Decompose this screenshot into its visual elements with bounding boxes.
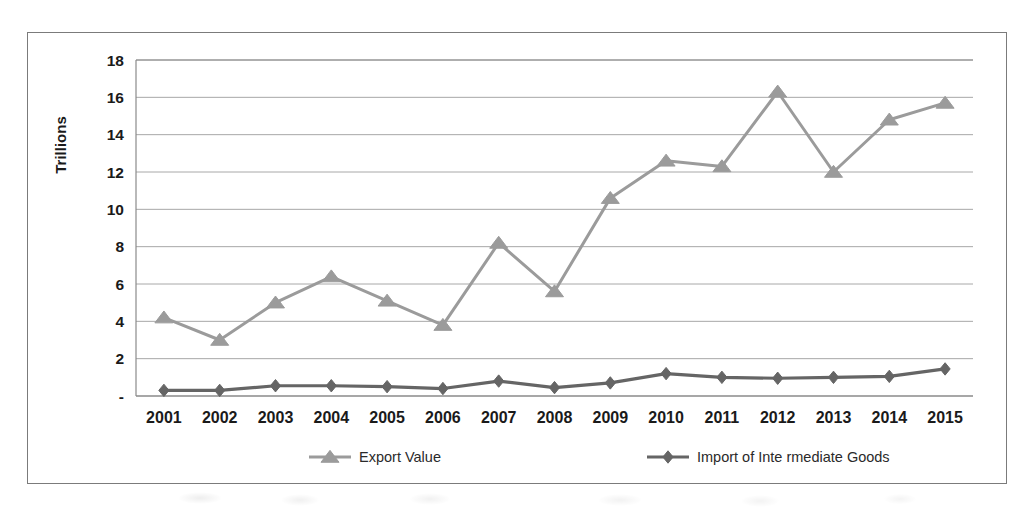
chart-frame: Trillions 18161412108642- 20012002200320… bbox=[27, 32, 1007, 484]
y-axis-tick-labels: 18161412108642- bbox=[107, 52, 125, 405]
data-point-marker-diamond bbox=[326, 380, 336, 392]
x-axis-tick-label: 2001 bbox=[146, 409, 182, 426]
gridlines bbox=[136, 60, 973, 359]
chart-legend: Export ValueImport of Inte rmediate Good… bbox=[309, 449, 890, 465]
x-axis-tick-label: 2012 bbox=[760, 409, 796, 426]
data-point-marker-diamond bbox=[382, 380, 392, 392]
x-axis-tick-label: 2015 bbox=[927, 409, 963, 426]
data-point-marker-diamond bbox=[661, 367, 671, 379]
data-point-marker-triangle bbox=[378, 294, 396, 306]
data-point-marker-triangle bbox=[434, 318, 452, 330]
line-chart: Trillions 18161412108642- 20012002200320… bbox=[28, 33, 1006, 483]
data-series-group bbox=[155, 85, 954, 396]
x-axis-tick-label: 2010 bbox=[648, 409, 684, 426]
x-axis-tick-label: 2009 bbox=[593, 409, 629, 426]
y-axis-tick-label: 6 bbox=[115, 276, 124, 293]
x-axis-tick-label: 2006 bbox=[425, 409, 461, 426]
data-point-marker-triangle bbox=[267, 296, 285, 308]
y-axis-tick-label: - bbox=[119, 388, 124, 405]
y-axis-tick-label: 12 bbox=[107, 164, 124, 181]
data-point-marker-triangle bbox=[490, 236, 508, 248]
data-point-marker-diamond bbox=[717, 371, 727, 383]
series-diamond bbox=[159, 363, 950, 397]
y-axis-tick-label: 14 bbox=[107, 126, 125, 143]
series-triangle bbox=[155, 85, 954, 345]
data-point-marker-diamond bbox=[549, 381, 559, 393]
data-point-marker-triangle bbox=[322, 270, 340, 282]
data-point-marker-diamond bbox=[494, 375, 504, 387]
data-point-marker-diamond bbox=[773, 372, 783, 384]
data-point-marker-diamond bbox=[940, 363, 950, 375]
data-point-marker-diamond bbox=[828, 371, 838, 383]
plot-area-axes bbox=[136, 60, 973, 396]
y-axis-title: Trillions bbox=[52, 116, 69, 174]
data-point-marker-diamond bbox=[605, 377, 615, 389]
x-axis-tick-label: 2008 bbox=[537, 409, 573, 426]
y-axis-tick-label: 8 bbox=[115, 238, 124, 255]
y-axis-tick-label: 18 bbox=[107, 52, 125, 69]
x-axis-tick-label: 2002 bbox=[202, 409, 238, 426]
y-axis-tick-label: 2 bbox=[115, 350, 124, 367]
data-point-marker-diamond bbox=[884, 370, 894, 382]
data-point-marker-diamond bbox=[215, 384, 225, 396]
x-axis-tick-labels: 2001200220032004200520062007200820092010… bbox=[146, 409, 963, 426]
x-axis-tick-label: 2003 bbox=[258, 409, 294, 426]
data-point-marker-diamond bbox=[663, 451, 673, 463]
x-axis-tick-label: 2004 bbox=[314, 409, 350, 426]
y-axis-tick-label: 10 bbox=[107, 201, 124, 218]
data-point-marker-diamond bbox=[159, 384, 169, 396]
x-axis-tick-label: 2014 bbox=[872, 409, 908, 426]
x-axis-tick-label: 2007 bbox=[481, 409, 517, 426]
legend-item: Export Value bbox=[309, 449, 441, 465]
legend-item: Import of Inte rmediate Goods bbox=[647, 449, 890, 465]
x-axis-tick-label: 2011 bbox=[705, 409, 740, 426]
y-axis-tick-label: 16 bbox=[107, 89, 125, 106]
legend-label: Export Value bbox=[359, 449, 441, 465]
y-axis-tick-label: 4 bbox=[115, 313, 124, 330]
data-point-marker-diamond bbox=[438, 382, 448, 394]
data-point-marker-triangle bbox=[769, 85, 787, 97]
legend-label: Import of Inte rmediate Goods bbox=[697, 449, 890, 465]
data-point-marker-triangle bbox=[936, 96, 954, 108]
x-axis-tick-label: 2013 bbox=[816, 409, 852, 426]
data-point-marker-triangle bbox=[155, 311, 173, 323]
x-axis-tick-label: 2005 bbox=[369, 409, 405, 426]
data-point-marker-diamond bbox=[270, 380, 280, 392]
